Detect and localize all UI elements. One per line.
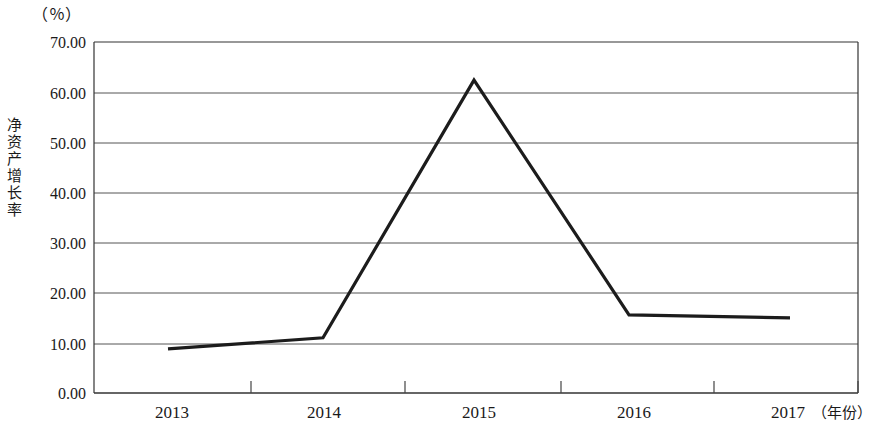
y-tick-label: 10.00 — [50, 336, 86, 353]
x-tick-label: 2015 — [462, 403, 496, 422]
net-asset-growth-rate-chart: （％） 净 资 产 增 长 率 70.00 60. — [0, 0, 878, 425]
x-tick-label: 2016 — [617, 403, 651, 422]
x-axis-tick-labels: 2013 2014 2015 2016 2017 （年份） — [155, 403, 872, 422]
y-tick-label: 70.00 — [50, 34, 86, 51]
y-tick-label: 0.00 — [58, 385, 86, 402]
chart-plot-area: 70.00 60.00 50.00 40.00 30.00 20.00 10.0… — [0, 0, 878, 425]
y-axis-tick-labels: 70.00 60.00 50.00 40.00 30.00 20.00 10.0… — [50, 34, 86, 402]
y-tick-label: 30.00 — [50, 235, 86, 252]
y-tick-label: 60.00 — [50, 85, 86, 102]
x-tick-label: 2013 — [155, 403, 189, 422]
x-axis-unit-label: （年份） — [812, 405, 872, 421]
y-tick-label: 50.00 — [50, 135, 86, 152]
x-tick-label: 2017 — [771, 403, 806, 422]
x-tick-label: 2014 — [307, 403, 342, 422]
x-axis-tickmarks — [251, 381, 858, 393]
y-tick-label: 40.00 — [50, 185, 86, 202]
y-gridlines — [94, 42, 858, 344]
net-asset-growth-rate-line — [168, 80, 790, 349]
y-tick-label: 20.00 — [50, 285, 86, 302]
